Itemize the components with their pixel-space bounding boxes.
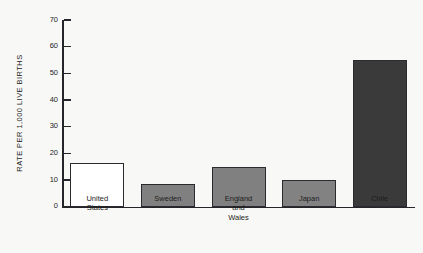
y-tick-mark	[64, 99, 71, 100]
y-tick-mark	[64, 126, 71, 127]
x-category-label: Chile	[344, 194, 415, 203]
bar	[353, 60, 407, 207]
y-tick-label: 70	[36, 16, 58, 24]
y-tick-mark	[64, 46, 71, 47]
bar-chart: RATE PER 1,000 LIVE BIRTHS 7060504030201…	[0, 0, 423, 253]
plot-area: 706050403020100	[62, 20, 415, 208]
y-tick-label: 40	[36, 96, 58, 104]
y-tick-label: 60	[36, 42, 58, 50]
y-tick-label: 20	[36, 149, 58, 157]
y-tick-mark	[64, 153, 71, 154]
x-category-label: United States	[62, 194, 133, 213]
y-tick-label: 10	[36, 176, 58, 184]
y-tick-mark	[64, 19, 71, 20]
y-axis-tick-labels: 706050403020100	[36, 20, 58, 208]
y-axis-title: RATE PER 1,000 LIVE BIRTHS	[13, 13, 27, 213]
y-tick-label: 30	[36, 122, 58, 130]
y-tick-label: 0	[36, 202, 58, 210]
x-category-label: Sweden	[133, 194, 204, 203]
y-tick-mark	[64, 73, 71, 74]
x-category-label: Japan	[274, 194, 345, 203]
y-tick-label: 50	[36, 69, 58, 77]
x-category-label: England and Wales	[203, 194, 274, 222]
